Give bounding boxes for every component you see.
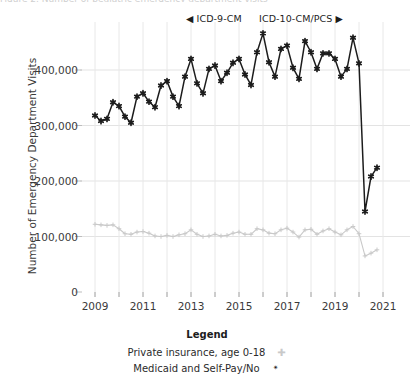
- x-tick-label: 2013: [178, 300, 205, 312]
- chart-figure: Figure 2. Number of pediatric emergency …: [0, 0, 414, 376]
- x-tick-label: 2011: [130, 300, 157, 312]
- legend-label: Medicaid and Self-Pay/No: [133, 363, 259, 374]
- y-tick-label: 300,000: [35, 120, 78, 132]
- x-tick-label: 2021: [370, 300, 397, 312]
- series-private-insurance-age-0-18: [93, 222, 379, 257]
- y-tick-label: 400,000: [35, 64, 78, 76]
- legend-label: Private insurance, age 0-18: [128, 347, 266, 358]
- y-tick-label: 0: [71, 286, 78, 298]
- legend-item-private-insurance: Private insurance, age 0-18 ✚: [0, 347, 414, 358]
- y-tick-label: 100,000: [35, 231, 78, 243]
- legend-marker-plus-icon: ✚: [276, 348, 286, 358]
- x-tick-label: 2017: [274, 300, 301, 312]
- icd10-annotation: ICD-10-CM/PCS ▶: [259, 13, 343, 24]
- x-tick-label: 2019: [322, 300, 349, 312]
- y-axis-ticks: 400,000 300,000 200,000 100,000 0: [12, 0, 78, 320]
- series-medicaid-and-self-pay-no: [93, 31, 380, 214]
- legend-title: Legend: [0, 329, 414, 340]
- legend-item-medicaid: Medicaid and Self-Pay/No ✴: [0, 363, 414, 374]
- legend-marker-star-icon: ✴: [271, 365, 281, 372]
- y-tick-label: 200,000: [35, 175, 78, 187]
- x-tick-label: 2009: [82, 300, 109, 312]
- icd9-annotation: ◀ ICD-9-CM: [186, 13, 242, 24]
- x-tick-label: 2015: [226, 300, 253, 312]
